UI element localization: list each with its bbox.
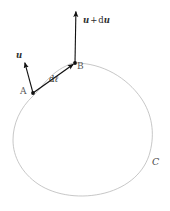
point-a-marker (31, 91, 35, 95)
vector-u-label: u (16, 51, 22, 60)
point-b-label: B (77, 62, 84, 71)
vector-plus-operator: + (89, 15, 98, 25)
vector-u-plus-du-shaft (75, 12, 76, 64)
vector-du-symbol: u (104, 15, 110, 25)
vector-dl-symbol: ℓ (54, 74, 58, 84)
vector-u-plus-du-label: u+du (83, 16, 110, 25)
curve-c-label: C (152, 157, 159, 167)
vector-dl-label: dℓ (49, 75, 58, 84)
diagram-canvas (0, 0, 170, 211)
vector-curve-diagram: u u+du dℓ A B C (0, 0, 170, 211)
point-a-label: A (20, 87, 27, 96)
closed-curve-c (13, 63, 152, 196)
vector-u-symbol: u (16, 50, 22, 60)
